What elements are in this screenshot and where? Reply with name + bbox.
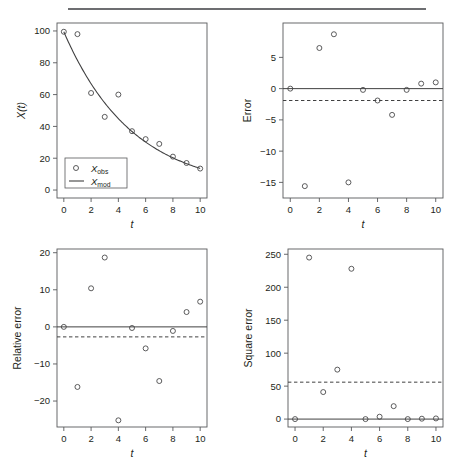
y-tick-label: 0 xyxy=(45,184,50,195)
data-point xyxy=(89,91,94,96)
data-point xyxy=(307,255,312,260)
legend: XobsXmod xyxy=(65,158,127,188)
data-point xyxy=(390,112,395,117)
data-point xyxy=(102,255,107,260)
data-point xyxy=(331,32,336,37)
data-point xyxy=(184,310,189,315)
x-tick-label: 8 xyxy=(170,433,175,444)
y-tick-label: 80 xyxy=(39,57,50,68)
data-point xyxy=(116,418,121,423)
y-tick-label: 20 xyxy=(39,247,50,258)
y-tick-label: −20 xyxy=(34,395,50,406)
y-tick-label: 5 xyxy=(271,52,276,63)
y-tick-label: 100 xyxy=(34,25,50,36)
data-point xyxy=(157,379,162,384)
figure-canvas: 0246810t020406080100X(t)XobsXmod0246810t… xyxy=(0,0,474,462)
x-tick-label: 8 xyxy=(170,204,175,215)
data-point xyxy=(89,286,94,291)
model-curve xyxy=(64,32,200,169)
data-point xyxy=(346,180,351,185)
x-tick-label: 0 xyxy=(292,433,297,444)
y-axis-label: X(t) xyxy=(15,102,27,120)
top-divider-rule xyxy=(68,8,426,10)
plot-frame xyxy=(288,249,443,427)
data-point xyxy=(198,166,203,171)
x-tick-label: 2 xyxy=(88,204,93,215)
data-point xyxy=(391,404,396,409)
y-tick-label: 250 xyxy=(265,249,281,260)
y-tick-label: 10 xyxy=(39,284,50,295)
data-point xyxy=(102,114,107,119)
plot-frame xyxy=(283,23,443,198)
y-tick-label: 40 xyxy=(39,121,50,132)
y-tick-label: 200 xyxy=(265,282,281,293)
y-tick-label: 0 xyxy=(45,321,50,332)
x-tick-label: 10 xyxy=(195,204,206,215)
y-tick-label: 0 xyxy=(271,83,276,94)
y-axis-label: Square error xyxy=(242,308,254,367)
plot-frame xyxy=(57,249,207,427)
x-tick-label: 6 xyxy=(143,204,148,215)
data-point xyxy=(116,92,121,97)
legend-label-subscript: obs xyxy=(97,168,109,175)
y-axis-label: Relative error xyxy=(11,306,23,370)
y-tick-label: 100 xyxy=(265,348,281,359)
x-tick-label: 10 xyxy=(195,433,206,444)
data-point xyxy=(302,184,307,189)
data-point xyxy=(321,390,326,395)
y-tick-label: −10 xyxy=(260,146,276,157)
x-tick-label: 2 xyxy=(321,433,326,444)
x-tick-label: 2 xyxy=(88,433,93,444)
x-tick-label: 4 xyxy=(116,204,121,215)
y-tick-label: −10 xyxy=(34,358,50,369)
x-tick-label: 0 xyxy=(288,204,293,215)
data-point xyxy=(75,32,80,37)
x-axis-label: t xyxy=(362,218,366,230)
x-tick-label: 4 xyxy=(116,433,121,444)
y-tick-label: −15 xyxy=(260,177,276,188)
x-tick-label: 4 xyxy=(349,433,354,444)
x-tick-label: 10 xyxy=(430,204,441,215)
y-tick-label: −5 xyxy=(265,114,276,125)
data-point xyxy=(433,416,438,421)
data-point xyxy=(170,328,175,333)
x-axis-label: t xyxy=(131,447,135,459)
y-tick-label: 20 xyxy=(39,153,50,164)
x-tick-label: 4 xyxy=(346,204,351,215)
data-point xyxy=(419,81,424,86)
panel-relative-error: 0246810t−20−1001020Relative error xyxy=(11,247,207,459)
panel-error: 0246810t−15−10−505Error xyxy=(241,23,443,230)
data-point xyxy=(335,367,340,372)
x-axis-label: t xyxy=(131,218,135,230)
x-tick-label: 10 xyxy=(431,433,442,444)
y-tick-label: 50 xyxy=(270,381,281,392)
x-tick-label: 6 xyxy=(375,204,380,215)
data-point xyxy=(75,384,80,389)
data-point xyxy=(157,141,162,146)
x-tick-label: 2 xyxy=(317,204,322,215)
y-axis-label: Error xyxy=(241,98,253,122)
x-tick-label: 6 xyxy=(143,433,148,444)
x-tick-label: 0 xyxy=(61,433,66,444)
four-panel-plot-svg: 0246810t020406080100X(t)XobsXmod0246810t… xyxy=(0,0,474,462)
data-point xyxy=(349,266,354,271)
data-point xyxy=(198,299,203,304)
data-point xyxy=(317,46,322,51)
y-tick-label: 150 xyxy=(265,315,281,326)
data-point xyxy=(433,80,438,85)
data-point xyxy=(143,346,148,351)
x-tick-label: 8 xyxy=(405,433,410,444)
panel-model-fit: 0246810t020406080100X(t)XobsXmod xyxy=(15,23,207,230)
y-tick-label: 60 xyxy=(39,89,50,100)
x-axis-label: t xyxy=(364,447,368,459)
legend-label-subscript: mod xyxy=(97,181,110,188)
data-point xyxy=(130,325,135,330)
y-tick-label: 0 xyxy=(276,413,281,424)
data-point xyxy=(377,414,382,419)
x-tick-label: 6 xyxy=(377,433,382,444)
x-tick-label: 0 xyxy=(61,204,66,215)
panel-square-error: 0246810t050100150200250Square error xyxy=(242,249,443,459)
x-tick-label: 8 xyxy=(404,204,409,215)
